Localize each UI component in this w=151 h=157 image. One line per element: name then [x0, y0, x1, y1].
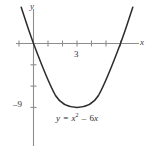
equation-minus-sign: – [81, 113, 88, 123]
x-tick-label-3: 3 [74, 50, 79, 59]
x-axis-label: x [140, 38, 144, 47]
graph-canvas [0, 0, 151, 157]
parabola-figure: y x 3 –9 y = x2 – 6x [0, 0, 151, 157]
y-tick-label-negative-nine: –9 [13, 100, 22, 109]
equation-lhs: y [56, 113, 60, 123]
equation-variable-2: x [94, 113, 98, 123]
equation-annotation: y = x2 – 6x [56, 114, 98, 123]
equation-exponent: 2 [76, 112, 79, 118]
y-axis-label: y [30, 2, 34, 11]
equation-equals: = [62, 113, 69, 123]
